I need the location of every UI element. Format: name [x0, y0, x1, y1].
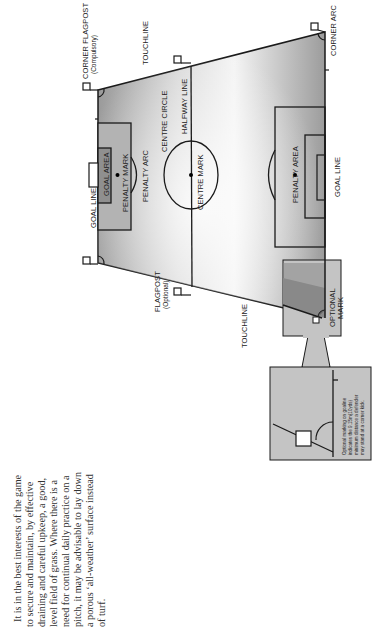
svg-text:draining and careful upkeep, a: draining and careful upkeep, a good,	[36, 478, 47, 627]
svg-text:minimum distance a defender: minimum distance a defender	[354, 394, 359, 455]
svg-text:pitch, it may be advisable to: pitch, it may be advisable to lay down	[72, 472, 83, 627]
label-goal-line-right: GOAL LINE	[333, 157, 342, 197]
flag-icon	[311, 23, 318, 30]
left-penalty-mark	[116, 173, 120, 177]
label-flagpost: FLAGPOST	[153, 271, 162, 312]
svg-text:It is in the best interests of: It is in the best interests of the game	[12, 474, 23, 622]
label-flagpost-note: (Optional)	[162, 280, 170, 309]
label-goal-line-left: GOAL LINE	[89, 188, 98, 228]
label-optional-mark-2: MARK	[336, 297, 345, 319]
svg-text:Optional marking on goaline: Optional marking on goaline	[342, 397, 347, 455]
label-touchline-top: TOUCHLINE	[141, 21, 150, 65]
inset-connector	[302, 336, 330, 367]
flag-icon	[83, 257, 90, 264]
left-goal	[89, 163, 98, 187]
label-centre-circle: CENTRE CIRCLE	[160, 90, 169, 152]
label-penalty-area: PENALTY AREA	[291, 146, 300, 203]
label-penalty-mark: PENALTY MARK	[121, 154, 130, 212]
flag-icon	[174, 56, 181, 63]
centre-mark	[189, 173, 193, 177]
svg-text:a porous ‘all-weather’ surface: a porous ‘all-weather’ surface instead	[84, 474, 95, 627]
svg-text:of turf.: of turf.	[96, 599, 107, 627]
label-corner-flagpost: CORNER FLAGPOST	[81, 3, 90, 79]
svg-text:may stand at a corner kick.: may stand at a corner kick.	[360, 400, 365, 455]
inset-note: Optional marking on goaline indicates th…	[342, 394, 365, 455]
label-goal-area: GOAL AREA	[102, 152, 111, 196]
flag-icon	[83, 83, 90, 90]
label-corner-arc: CORNER ARC	[329, 5, 338, 56]
label-halfway-line: HALFWAY LINE	[180, 79, 189, 134]
label-touchline-bottom: TOUCHLINE	[240, 304, 249, 348]
svg-text:level field of grass. Where th: level field of grass. Where there is a	[48, 480, 59, 627]
label-penalty-arc: PENALTY ARC	[141, 149, 150, 202]
body-paragraph: It is in the best interests of the game …	[12, 472, 107, 627]
flag-icon	[174, 288, 181, 295]
svg-text:to secure and maintain, by eff: to secure and maintain, by effective	[24, 481, 35, 627]
svg-text:indicates the 9.15m(10yds): indicates the 9.15m(10yds)	[348, 399, 353, 455]
svg-text:need for continual daily pract: need for continual daily practice on a	[60, 475, 71, 627]
pitch-diagram: CORNER FLAGPOST (Compulsory) TOUCHLINE C…	[0, 0, 390, 634]
label-corner-flagpost-note: (Compulsory)	[90, 35, 98, 74]
label-centre-mark: CENTRE MARK	[196, 154, 205, 210]
